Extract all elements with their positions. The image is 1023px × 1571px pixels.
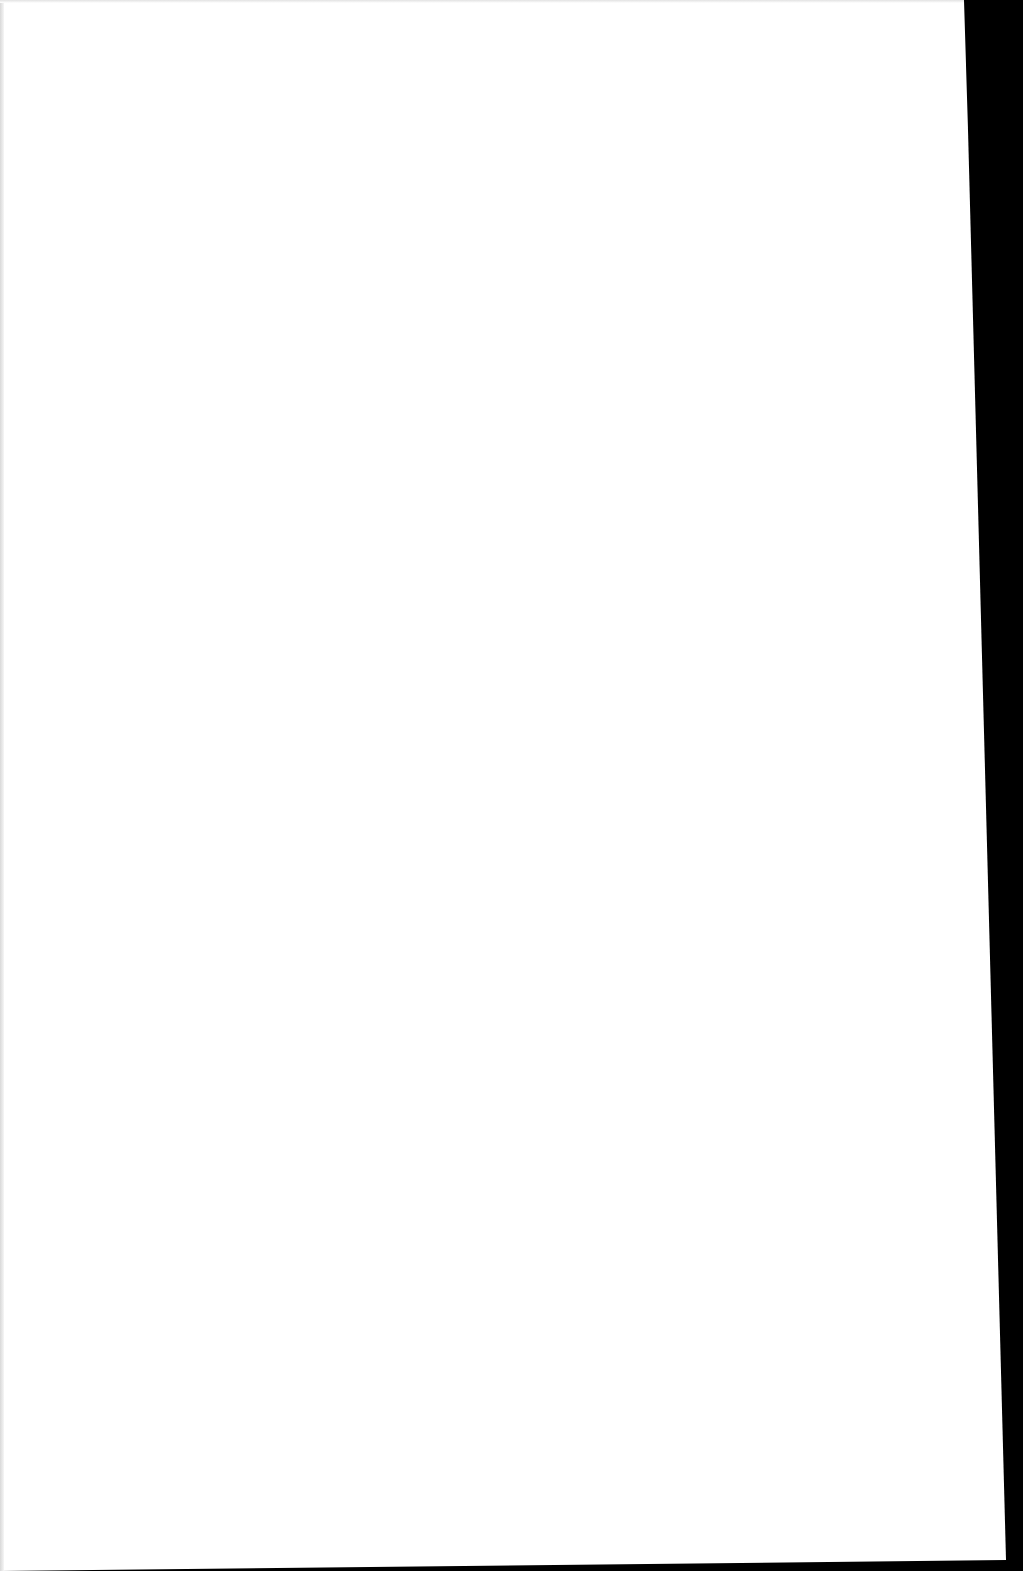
page-left-edge bbox=[0, 0, 4, 1571]
page-top-edge bbox=[0, 0, 964, 3]
blank-scanned-page bbox=[0, 0, 1023, 1571]
